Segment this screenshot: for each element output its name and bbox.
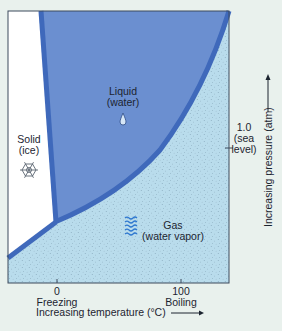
gas-label: Gas (water vapor) — [137, 220, 209, 242]
y-tick-1-label: 1.0 (sea level) — [228, 122, 260, 155]
x-axis-title: Increasing temperature (°C) — [36, 307, 166, 318]
y-axis-title: Increasing pressure (atm) — [262, 107, 274, 227]
solid-subtitle: (ice) — [9, 145, 49, 156]
y-arrow-head-icon — [266, 74, 271, 80]
gas-subtitle: (water vapor) — [137, 231, 209, 242]
liquid-label: Liquid (water) — [100, 86, 146, 108]
x-tick-0-label: 0 Freezing — [32, 286, 82, 308]
liquid-subtitle: (water) — [100, 97, 146, 108]
x-arrow-head-icon — [199, 311, 204, 316]
solid-label: Solid (ice) — [9, 134, 49, 156]
y-tick-1-sublabel-2: level) — [228, 144, 260, 155]
x-tick-100-label: 100 Boiling — [156, 286, 206, 308]
phase-diagram — [0, 0, 282, 331]
